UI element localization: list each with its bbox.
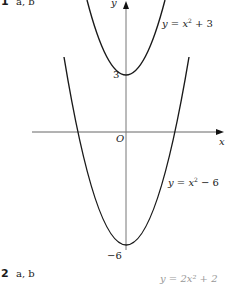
y-intercept-3-label: 3 bbox=[113, 69, 119, 80]
curve-1-rhs: + 3 bbox=[192, 18, 213, 29]
curve-2-lhs: y = x bbox=[168, 177, 194, 188]
y-intercept-neg6-label: −6 bbox=[107, 250, 122, 261]
y-axis-label: y bbox=[111, 0, 117, 8]
curve-1-equation: y = x2 + 3 bbox=[162, 17, 213, 29]
curve-2-rhs: − 6 bbox=[198, 177, 219, 188]
question-2-trailing-text: y = 2x² + 2 bbox=[160, 273, 218, 284]
x-axis-label: x bbox=[219, 136, 225, 147]
origin-label: O bbox=[116, 133, 124, 144]
y-axis-arrow-icon bbox=[123, 1, 129, 9]
curve-1-lhs: y = x bbox=[162, 18, 188, 29]
question-2-number: 2 bbox=[1, 267, 9, 280]
question-2-parts: a, b bbox=[16, 268, 35, 279]
x-axis-arrow-icon bbox=[216, 129, 224, 135]
curve-2-equation: y = x2 − 6 bbox=[168, 176, 219, 188]
